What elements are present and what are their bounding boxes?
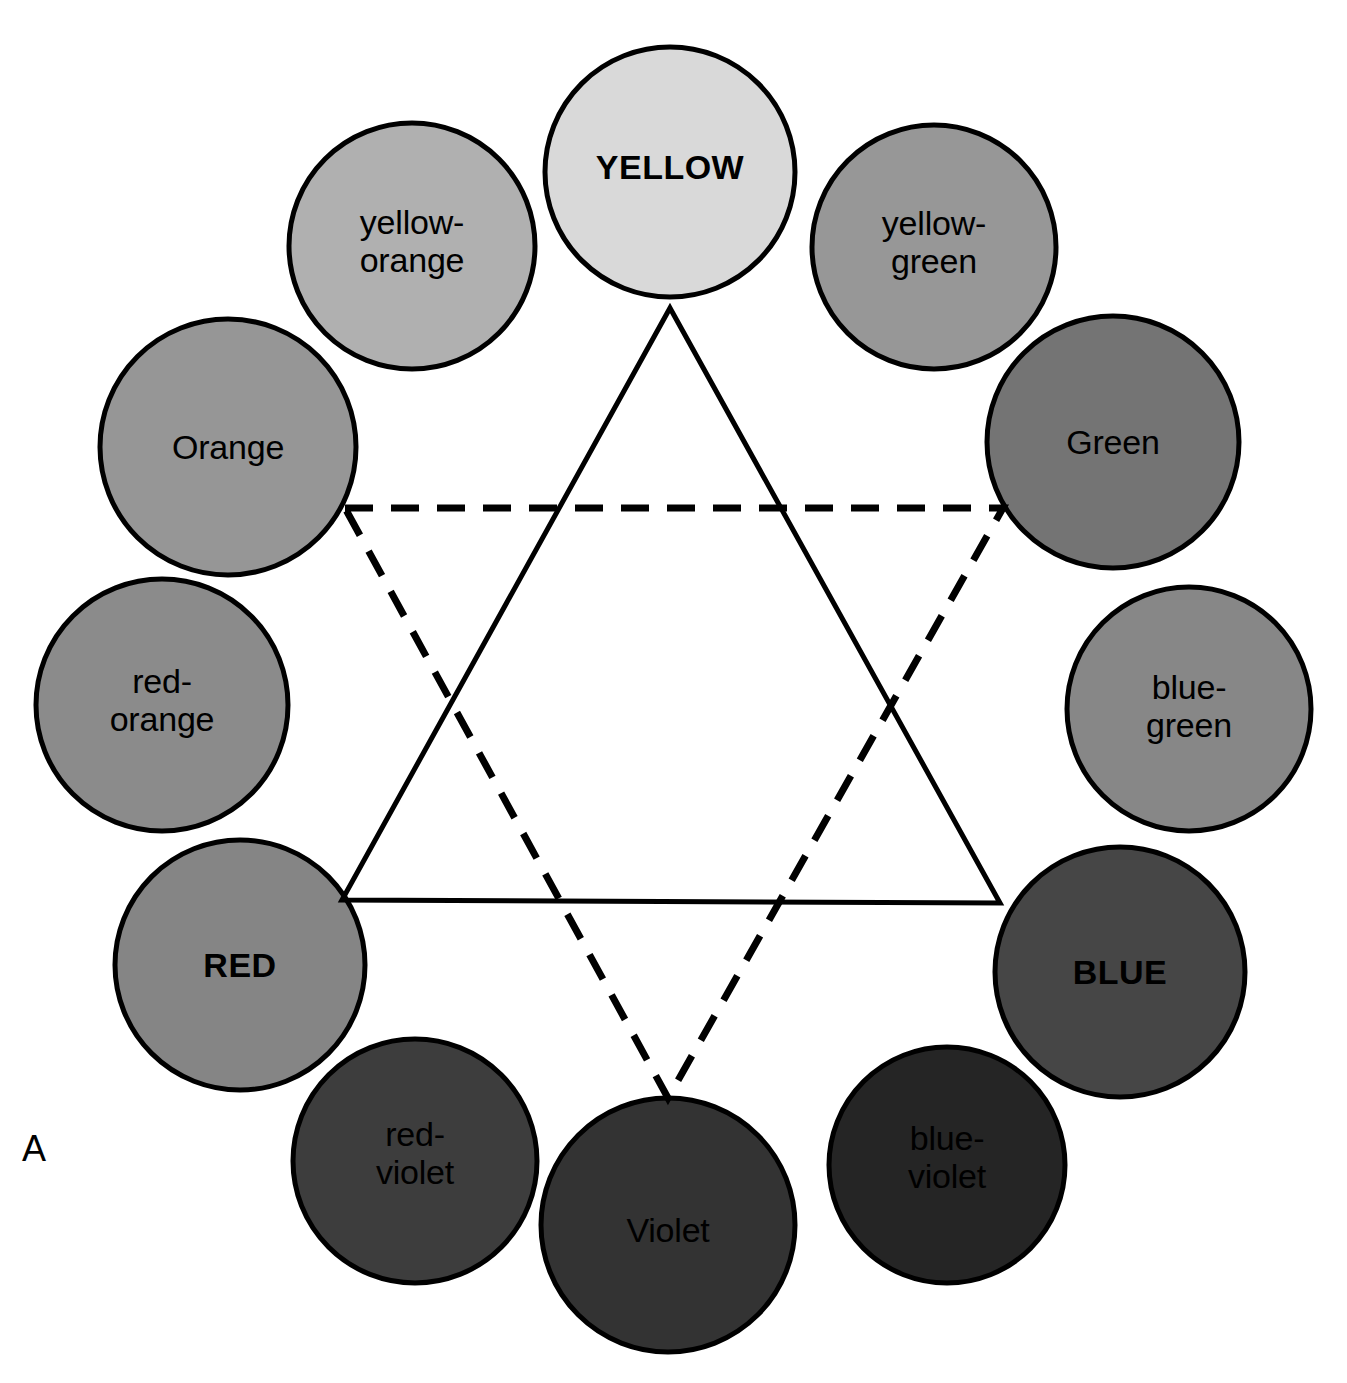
swatch-circle-yellow-green[interactable]: [812, 125, 1056, 369]
triad-triangles-layer: [342, 308, 1003, 1098]
swatch-circle-red-orange[interactable]: [36, 579, 288, 831]
swatch-circle-yellow[interactable]: [545, 47, 795, 297]
swatch-circle-blue-green[interactable]: [1067, 587, 1311, 831]
triad-triangle-secondary-triad: [345, 508, 1003, 1098]
swatch-circle-green[interactable]: [987, 316, 1239, 568]
swatch-circles-layer: [36, 47, 1311, 1352]
swatch-circle-red-violet[interactable]: [293, 1039, 537, 1283]
swatch-circle-red[interactable]: [115, 840, 365, 1090]
color-wheel-figure: YELLOWyellow- greenGreenblue- greenBLUEb…: [0, 0, 1347, 1383]
swatch-circle-blue-violet[interactable]: [829, 1047, 1065, 1283]
swatch-circle-blue[interactable]: [995, 847, 1245, 1097]
triad-triangle-primary-triad: [342, 308, 1000, 903]
color-wheel-canvas: [0, 0, 1347, 1383]
swatch-circle-yellow-orange[interactable]: [289, 123, 535, 369]
swatch-circle-violet[interactable]: [541, 1098, 795, 1352]
swatch-circle-orange[interactable]: [100, 319, 356, 575]
panel-letter: A: [22, 1128, 46, 1170]
